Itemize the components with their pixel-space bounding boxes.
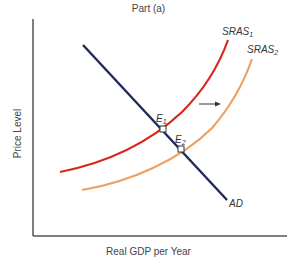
sras1-curve	[60, 40, 228, 172]
sras2-label: SRAS2	[247, 44, 278, 56]
ad-curve	[83, 45, 227, 200]
arrow-head-icon	[215, 102, 221, 107]
sras1-label: SRAS1	[222, 26, 253, 38]
ad-label: AD	[228, 198, 243, 209]
e2-label: E2	[175, 134, 186, 146]
equilibrium-point-e2	[178, 146, 184, 152]
e1-label: E1	[156, 113, 167, 125]
equilibrium-point-e1	[160, 126, 166, 132]
